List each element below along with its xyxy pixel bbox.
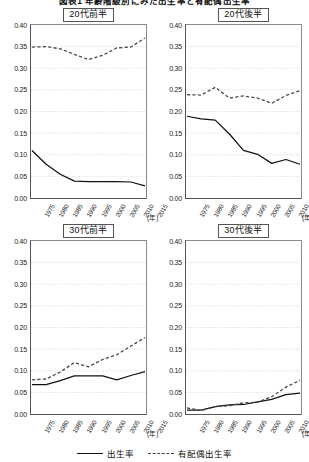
x-tick-label: 1995 — [254, 203, 267, 218]
plot-area — [185, 240, 302, 415]
x-axis-labels: 197519801985199019952000200520102015 — [185, 416, 302, 442]
y-axis-labels: 0.000.050.100.150.200.250.300.350.40 — [155, 240, 182, 415]
chart-panel-20s-second-half: 20代後半 0.000.050.100.150.200.250.300.350.… — [155, 10, 309, 229]
y-tick-label: 0.05 — [14, 173, 27, 180]
chart-panel-20s-first-half: 20代前半 0.000.050.100.150.200.250.300.350.… — [0, 10, 155, 229]
y-tick-label: 0.00 — [169, 195, 182, 202]
x-tick-label: 2005 — [128, 419, 141, 434]
x-tick-label: 1975 — [43, 419, 56, 434]
x-axis-labels: 197519801985199019952000200520102015 — [185, 200, 302, 226]
y-tick-label: 0.00 — [14, 411, 27, 418]
x-tick-label: 1980 — [212, 203, 225, 218]
y-axis-labels: 0.000.050.100.150.200.250.300.350.40 — [0, 240, 27, 415]
y-tick-label: 0.25 — [169, 86, 182, 93]
x-tick-label: 2005 — [283, 203, 296, 218]
y-axis-labels: 0.000.050.100.150.200.250.300.350.40 — [155, 24, 182, 199]
y-tick-label: 0.30 — [14, 281, 27, 288]
y-tick-label: 0.15 — [14, 130, 27, 137]
x-tick-label: 2000 — [113, 419, 126, 434]
chart-panel-30s-second-half: 30代後半 0.000.050.100.150.200.250.300.350.… — [155, 226, 309, 445]
x-tick-label: 1980 — [212, 419, 225, 434]
figure-title: 図表1 年齢階級別にみた出生率と有配偶出生率 — [0, 0, 309, 6]
y-tick-label: 0.40 — [14, 22, 27, 29]
y-tick-label: 0.15 — [14, 346, 27, 353]
legend-item: 有配偶出生率 — [148, 447, 232, 459]
y-tick-label: 0.05 — [14, 389, 27, 396]
x-tick-label: 2005 — [128, 203, 141, 218]
x-tick-label: 1975 — [198, 419, 211, 434]
y-tick-label: 0.40 — [169, 238, 182, 245]
plot-area — [30, 24, 147, 199]
y-tick-label: 0.30 — [14, 65, 27, 72]
y-tick-label: 0.05 — [169, 389, 182, 396]
x-tick-label: 1985 — [226, 203, 239, 218]
y-tick-label: 0.00 — [14, 195, 27, 202]
y-tick-label: 0.25 — [14, 302, 27, 309]
panel-title: 20代前半 — [30, 8, 147, 21]
y-tick-label: 0.15 — [169, 346, 182, 353]
panel-title: 30代前半 — [30, 224, 147, 237]
y-tick-label: 0.20 — [14, 108, 27, 115]
y-tick-label: 0.35 — [169, 43, 182, 50]
chart-panel-30s-first-half: 30代前半 0.000.050.100.150.200.250.300.350.… — [0, 226, 155, 445]
y-tick-label: 0.35 — [14, 259, 27, 266]
legend-label: 有配偶出生率 — [178, 447, 232, 459]
y-tick-label: 0.10 — [14, 367, 27, 374]
x-tick-label: 1990 — [240, 419, 253, 434]
y-tick-label: 0.15 — [169, 130, 182, 137]
y-tick-label: 0.30 — [169, 65, 182, 72]
x-tick-label: 1985 — [226, 419, 239, 434]
x-tick-label: 1990 — [85, 419, 98, 434]
y-tick-label: 0.35 — [14, 43, 27, 50]
y-tick-label: 0.40 — [169, 22, 182, 29]
y-tick-label: 0.00 — [169, 411, 182, 418]
x-tick-label: 1990 — [85, 203, 98, 218]
x-tick-label: 2000 — [268, 203, 281, 218]
y-tick-label: 0.25 — [169, 302, 182, 309]
x-tick-label: 2000 — [113, 203, 126, 218]
plot-area — [30, 240, 147, 415]
x-tick-label: 1980 — [57, 203, 70, 218]
x-tick-label: 1980 — [57, 419, 70, 434]
x-axis-unit: (年) — [302, 428, 309, 438]
y-tick-label: 0.10 — [169, 151, 182, 158]
plot-area — [185, 24, 302, 199]
x-axis-unit: (年) — [302, 212, 309, 222]
y-tick-label: 0.35 — [169, 259, 182, 266]
y-tick-label: 0.40 — [14, 238, 27, 245]
x-tick-label: 1995 — [99, 419, 112, 434]
y-tick-label: 0.05 — [169, 173, 182, 180]
x-tick-label: 1975 — [198, 203, 211, 218]
x-tick-label: 1995 — [99, 203, 112, 218]
legend-item: 出生率 — [77, 447, 134, 459]
figure-root: 図表1 年齢階級別にみた出生率と有配偶出生率 20代前半 0.000.050.1… — [0, 0, 309, 462]
chart-legend: 出生率有配偶出生率 — [0, 447, 309, 459]
x-tick-label: 1975 — [43, 203, 56, 218]
x-tick-label: 2000 — [268, 419, 281, 434]
x-axis-labels: 197519801985199019952000200520102015 — [30, 416, 147, 442]
y-axis-labels: 0.000.050.100.150.200.250.300.350.40 — [0, 24, 27, 199]
legend-label: 出生率 — [107, 447, 134, 459]
panel-title: 20代後半 — [185, 8, 302, 21]
y-tick-label: 0.30 — [169, 281, 182, 288]
legend-key-dashed-icon — [148, 453, 174, 454]
y-tick-label: 0.20 — [169, 324, 182, 331]
y-tick-label: 0.10 — [14, 151, 27, 158]
y-tick-label: 0.20 — [169, 108, 182, 115]
x-tick-label: 1990 — [240, 203, 253, 218]
x-tick-label: 1995 — [254, 419, 267, 434]
legend-key-solid-icon — [77, 453, 103, 454]
y-tick-label: 0.10 — [169, 367, 182, 374]
x-tick-label: 1985 — [71, 203, 84, 218]
y-tick-label: 0.20 — [14, 324, 27, 331]
panel-title: 30代後半 — [185, 224, 302, 237]
x-tick-label: 2005 — [283, 419, 296, 434]
x-axis-labels: 197519801985199019952000200520102015 — [30, 200, 147, 226]
y-tick-label: 0.25 — [14, 86, 27, 93]
x-tick-label: 1985 — [71, 419, 84, 434]
